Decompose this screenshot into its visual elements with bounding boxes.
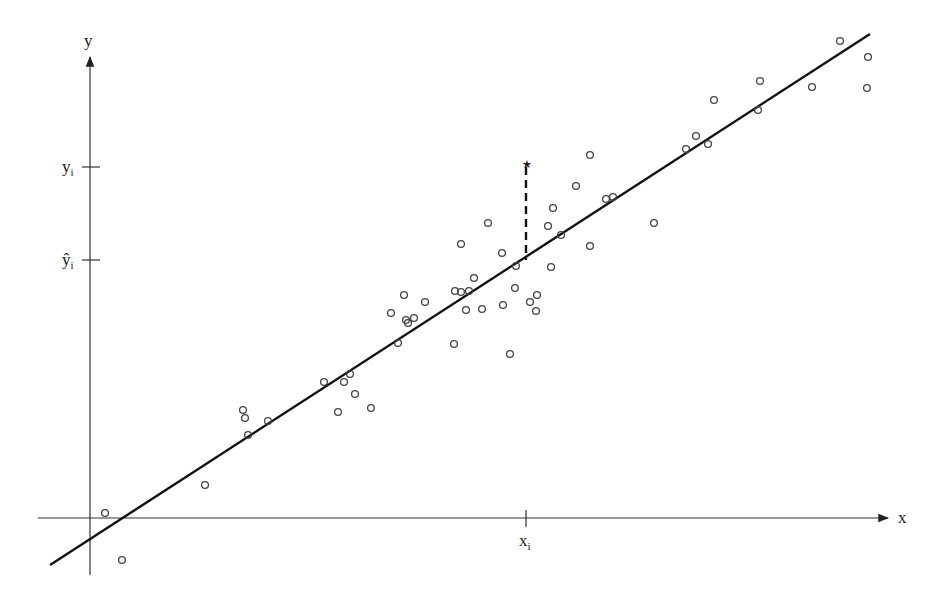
data-point xyxy=(422,299,429,306)
data-point xyxy=(479,306,486,313)
data-point xyxy=(202,482,209,489)
data-point xyxy=(102,510,109,517)
data-point xyxy=(485,220,492,227)
data-point xyxy=(527,299,534,306)
data-point xyxy=(458,241,465,248)
data-point xyxy=(573,183,580,190)
data-point xyxy=(809,84,816,91)
data-point xyxy=(603,196,610,203)
observed-point-star-icon: ★ xyxy=(522,158,532,170)
data-point xyxy=(512,285,519,292)
data-point xyxy=(533,308,540,315)
data-point xyxy=(711,97,718,104)
data-point xyxy=(587,152,594,159)
data-point xyxy=(757,78,764,85)
data-point xyxy=(321,379,328,386)
data-point xyxy=(451,341,458,348)
data-point xyxy=(837,38,844,45)
diagram-svg: y x yi ŷi xi ★ xyxy=(0,0,942,601)
x-axis-label: x xyxy=(898,508,907,527)
data-point xyxy=(693,133,700,140)
data-point xyxy=(242,415,249,422)
data-point xyxy=(651,220,658,227)
data-point xyxy=(705,141,712,148)
y-hat-i-label: ŷi xyxy=(62,250,74,271)
data-point xyxy=(864,85,871,92)
regression-line xyxy=(50,34,870,565)
data-point xyxy=(368,405,375,412)
data-point xyxy=(865,54,872,61)
data-point xyxy=(500,302,507,309)
data-points xyxy=(102,38,872,564)
data-point xyxy=(548,264,555,271)
data-point xyxy=(119,557,126,564)
data-point xyxy=(507,351,514,358)
y-i-label: yi xyxy=(62,157,74,178)
data-point xyxy=(335,409,342,416)
data-point xyxy=(463,307,470,314)
data-point xyxy=(411,315,418,322)
data-point xyxy=(683,146,690,153)
data-point xyxy=(388,310,395,317)
data-point xyxy=(341,379,348,386)
y-axis-label: y xyxy=(84,31,93,50)
data-point xyxy=(499,250,506,257)
data-point xyxy=(587,243,594,250)
data-point xyxy=(471,275,478,282)
data-point xyxy=(534,292,541,299)
regression-diagram: y x yi ŷi xi ★ xyxy=(0,0,942,601)
data-point xyxy=(352,391,359,398)
data-point xyxy=(550,205,557,212)
data-point xyxy=(240,407,247,414)
data-point xyxy=(401,292,408,299)
x-i-label: xi xyxy=(519,531,531,552)
data-point xyxy=(545,223,552,230)
